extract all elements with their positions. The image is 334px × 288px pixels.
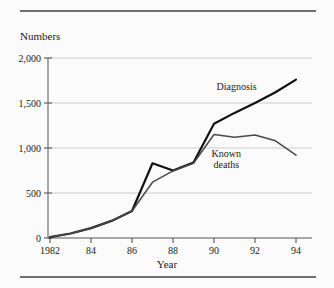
x-tick-label: 94 [291, 245, 301, 256]
x-tick-label: 90 [209, 245, 219, 256]
y-tick-label: 1,500 [19, 98, 42, 109]
x-tick-label: 84 [86, 245, 96, 256]
gridlines [50, 58, 312, 193]
x-tick-label: 1982 [40, 245, 60, 256]
y-tick-label: 1,000 [19, 143, 42, 154]
x-tick-label: 92 [250, 245, 260, 256]
x-tick-label: 88 [168, 245, 178, 256]
series-label-known-deaths: Known [212, 148, 241, 159]
y-tick-label: 2,000 [19, 53, 42, 64]
series-annotations: DiagnosisKnowndeaths [212, 81, 257, 170]
series-line-known-deaths [50, 135, 296, 238]
series-label-diagnosis: Diagnosis [217, 81, 257, 92]
figure-container: Numbers Year 05001,0001,5002,000 1982848… [0, 0, 334, 288]
y-axis-ticks: 05001,0001,5002,000 [19, 53, 53, 244]
x-axis-ticks: 1982848688909294 [40, 238, 301, 256]
series-label-known-deaths-line2: deaths [214, 159, 240, 170]
line-chart: 05001,0001,5002,000 1982848688909294 Dia… [0, 0, 334, 288]
y-tick-label: 500 [26, 188, 41, 199]
x-tick-label: 86 [127, 245, 137, 256]
y-tick-label: 0 [36, 233, 41, 244]
